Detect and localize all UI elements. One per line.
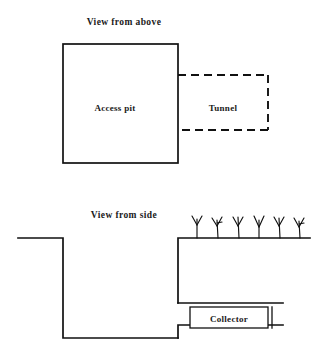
grass-tuft-icon [254, 216, 264, 238]
view-from-above-caption: View from above [87, 17, 162, 27]
grass-tuft-icon [233, 217, 243, 238]
grass-tuft-icon [212, 217, 222, 238]
grass-tuft-icon [274, 217, 284, 238]
diagram-container: View from above Access pit Tunnel View f… [0, 0, 324, 355]
tunnel-label: Tunnel [209, 103, 238, 113]
access-pit-label: Access pit [94, 103, 135, 113]
grass-tuft-icon [294, 218, 304, 238]
access-pit-tunnel-diagram: View from above Access pit Tunnel View f… [0, 0, 324, 355]
grass-tuft-icon [192, 216, 202, 238]
view-from-side-caption: View from side [91, 210, 157, 220]
view-from-side-group: View from side Collector [18, 210, 310, 338]
grass-tufts-group [192, 216, 304, 238]
pit-left-wall-and-floor [18, 238, 178, 338]
ground-right-and-pit-right-wall [178, 238, 310, 303]
view-from-above-group: View from above Access pit Tunnel [63, 17, 268, 163]
collector-label: Collector [210, 314, 248, 324]
